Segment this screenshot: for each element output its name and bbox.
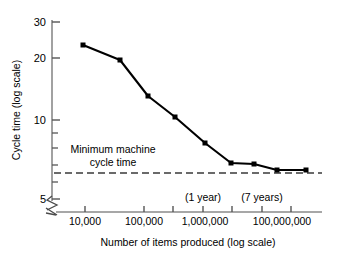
- data-point-marker: [203, 141, 208, 146]
- y-tick-label-20: 20: [34, 52, 46, 64]
- x-axis-title: Number of items produced (log scale): [100, 236, 275, 248]
- learning-curve-chart: 30 20 10 5 10,000 100,000 1,000,000 100,…: [0, 0, 341, 258]
- chart-figure: 30 20 10 5 10,000 100,000 1,000,000 100,…: [0, 0, 341, 258]
- x-tick-label-100000000: 100,000,000: [253, 215, 312, 227]
- annotation-7-years: (7 years): [241, 191, 282, 203]
- x-tick-label-1000000: 1,000,000: [182, 215, 229, 227]
- data-point-marker: [118, 58, 123, 63]
- data-point-marker: [173, 115, 178, 120]
- data-point-marker: [229, 161, 234, 166]
- data-point-marker: [304, 168, 309, 173]
- reference-label-line-2: cycle time: [90, 156, 137, 168]
- data-point-marker: [252, 162, 257, 167]
- data-point-marker: [81, 43, 86, 48]
- data-point-marker: [146, 94, 151, 99]
- y-tick-label-10: 10: [34, 114, 46, 126]
- x-tick-label-10000: 10,000: [69, 215, 101, 227]
- y-tick-label-30: 30: [34, 16, 46, 28]
- x-tick-label-100000: 100,000: [125, 215, 163, 227]
- data-point-marker: [275, 168, 280, 173]
- y-tick-label-5: 5: [40, 193, 46, 205]
- y-axis-title: Cycle time (log scale): [10, 60, 22, 160]
- reference-label-line-1: Minimum machine: [70, 143, 155, 155]
- annotation-1-year: (1 year): [185, 191, 221, 203]
